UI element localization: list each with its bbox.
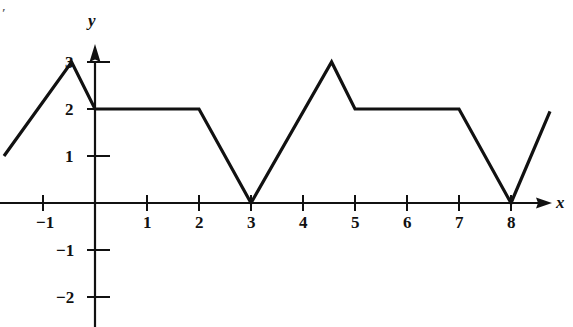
x-tick-label-6: 6	[403, 214, 412, 231]
y-tick-label-2: 2	[65, 101, 74, 118]
y-axis-label: y	[88, 12, 96, 29]
y-tick-label-1: 1	[65, 148, 74, 165]
y-tick-label-3: 3	[65, 54, 74, 71]
x-tick-label-neg1: −1	[36, 214, 54, 231]
y-axis	[90, 44, 101, 327]
x-tick-label-8: 8	[507, 214, 516, 231]
x-tick-label-3: 3	[247, 214, 256, 231]
y-tick-label-neg2: −2	[56, 289, 74, 306]
x-tick-label-4: 4	[299, 214, 308, 231]
x-tick-label-1: 1	[143, 214, 152, 231]
x-tick-label-2: 2	[195, 214, 204, 231]
x-tick-label-5: 5	[351, 214, 360, 231]
graph-figure: −1 1 2 3 4 5 6 7 8 3 2 1 −1 −2 y x ′	[0, 0, 573, 327]
x-axis-label: x	[556, 194, 565, 211]
x-tick-label-7: 7	[455, 214, 464, 231]
x-axis	[0, 198, 552, 209]
function-curve	[4, 62, 550, 203]
plot-canvas	[0, 0, 573, 327]
y-tick-label-neg1: −1	[56, 242, 74, 259]
scan-artifact-mark: ′	[2, 6, 6, 19]
